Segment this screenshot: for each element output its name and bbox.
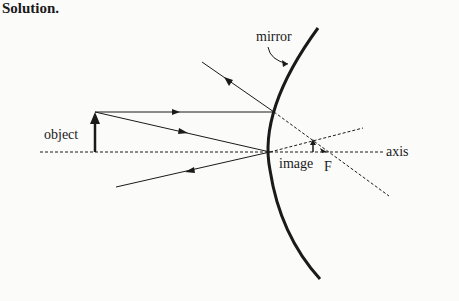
image-label: image <box>279 156 313 171</box>
focal-point-label: F <box>324 159 332 174</box>
virtual-ray-2 <box>270 128 363 152</box>
mirror-pointer-arrow-icon <box>268 47 288 64</box>
mirror <box>268 28 320 279</box>
mirror-label: mirror <box>256 29 292 44</box>
object-label: object <box>44 127 78 142</box>
virtual-ray-1 <box>274 112 389 196</box>
mirror-ray-diagram: mirror object image F axis <box>0 0 459 301</box>
axis-label: axis <box>386 144 409 159</box>
reflected-ray-1 <box>202 62 274 112</box>
object-arrowhead-icon <box>90 112 100 124</box>
